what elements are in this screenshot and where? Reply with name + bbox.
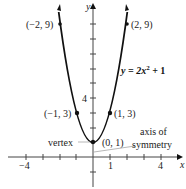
tick-label-1: 1 xyxy=(108,160,113,171)
vertex-label: vertex xyxy=(48,137,73,148)
y-axis-label: y xyxy=(85,1,91,12)
axis-of-symmetry-label-line1: axis of xyxy=(140,126,168,137)
point-0-1 xyxy=(91,140,95,144)
axis-of-symmetry-label-line2: symmetry xyxy=(132,139,172,150)
label-point-1-3: (1, 3) xyxy=(114,108,136,120)
tick-label-4: 4 xyxy=(158,160,163,171)
arrow-right-icon xyxy=(125,4,129,11)
label-point-m1-3: (−1, 3) xyxy=(44,108,71,120)
point-m1-3 xyxy=(75,111,79,115)
point-1-3 xyxy=(108,111,112,115)
arrow-left-icon xyxy=(57,4,61,11)
label-point-m2-9: (−2, 9) xyxy=(26,19,53,31)
point-m2-9 xyxy=(58,22,62,26)
x-axis-label: x xyxy=(179,159,185,170)
point-2-9 xyxy=(125,22,129,26)
label-point-2-9: (2, 9) xyxy=(131,19,153,31)
label-point-0-1: (0, 1) xyxy=(102,137,124,149)
tick-label-y4: 4 xyxy=(82,93,87,104)
tick-label-neg4: −4 xyxy=(19,160,30,171)
parabola-chart: y x −4 1 4 4 (−2, 9) (2, 9) (−1, 3) (1, … xyxy=(0,0,186,189)
equation-label: y = 2x2 + 1 xyxy=(120,64,165,76)
